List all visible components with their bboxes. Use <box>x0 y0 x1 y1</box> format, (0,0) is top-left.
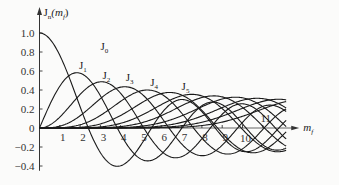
y-axis-title: Jn(mf) <box>44 6 69 21</box>
curve-label-J0: J0 <box>100 40 108 55</box>
curve-label-J3: J3 <box>126 71 134 86</box>
y-tick-label: 1.0 <box>21 27 35 39</box>
y-tick-label: 0.4 <box>21 84 35 96</box>
y-tick-label: 0 <box>29 122 35 134</box>
curve-label-J2: J2 <box>102 69 110 84</box>
x-axis-arrow-icon <box>291 126 299 130</box>
bessel-chart: 1.00.80.60.40.20−0.2−0.41234567891011J0J… <box>0 0 339 185</box>
curve-label-J5: J5 <box>182 80 190 95</box>
y-tick-label: 0.2 <box>21 103 35 115</box>
curve-label-J1: J1 <box>79 59 87 74</box>
x-tick-label: 3 <box>101 131 107 143</box>
bessel-curve-J1 <box>40 73 287 161</box>
x-tick-label: 7 <box>182 131 188 143</box>
x-tick-label: 2 <box>80 131 86 143</box>
y-tick-label: 0.8 <box>21 46 35 58</box>
curve-label-J4: J4 <box>150 76 158 91</box>
x-axis-title: mf <box>303 121 314 136</box>
x-tick-label: 6 <box>162 131 168 143</box>
y-tick-label: 0.6 <box>21 65 35 77</box>
y-axis-arrow-icon <box>37 7 42 15</box>
y-tick-label: −0.4 <box>15 160 35 172</box>
y-tick-label: −0.2 <box>15 141 35 153</box>
x-tick-label: 1 <box>60 131 66 143</box>
